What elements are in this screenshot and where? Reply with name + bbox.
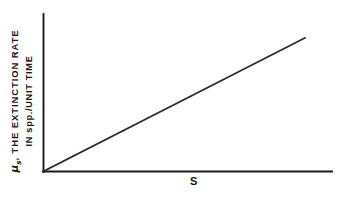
y-axis-unit-spp: spp. [23,111,33,133]
extinction-rate-line [44,38,305,171]
figure-container: μs, THE EXTINCTION RATE IN spp./UNIT TIM… [0,0,349,202]
y-axis-unit-suffix: /UNIT TIME [23,55,33,111]
plot-canvas [0,0,349,202]
x-axis-label: S [190,175,198,187]
y-axis-label-text: , THE EXTINCTION RATE [9,29,20,160]
y-axis-label-line-1: μs, THE EXTINCTION RATE [8,29,24,172]
y-axis-unit-prefix: IN [23,133,33,147]
y-axis-label-rotated: μs, THE EXTINCTION RATE IN spp./UNIT TIM… [8,29,34,172]
y-axis-label-line-2: IN spp./UNIT TIME [23,29,34,172]
mu-subscript: s [14,161,23,165]
mu-symbol: μs [8,161,20,173]
y-axis-label: μs, THE EXTINCTION RATE IN spp./UNIT TIM… [0,0,42,202]
mu-glyph: μ [8,165,20,173]
